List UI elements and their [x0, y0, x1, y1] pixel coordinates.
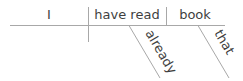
modifier-word-that: that — [211, 27, 237, 57]
sentence-diagram: I have read book already that — [0, 0, 243, 81]
subject-word: I — [47, 7, 51, 22]
object-word: book — [179, 7, 211, 22]
verb-word: have read — [94, 7, 159, 22]
modifier-word-already: already — [142, 27, 180, 77]
